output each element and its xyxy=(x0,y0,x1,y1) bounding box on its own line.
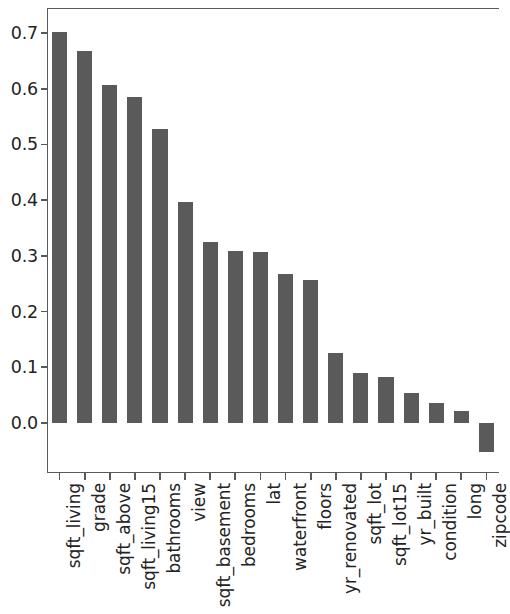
bar xyxy=(178,202,193,423)
x-axis-tick-mark xyxy=(310,473,312,480)
x-axis-tick-mark xyxy=(260,473,262,480)
y-axis-tick-label: 0.0 xyxy=(11,412,38,434)
y-axis-tick-label: 0.2 xyxy=(11,301,38,323)
x-axis-tick-label-text: view xyxy=(191,483,208,522)
y-axis: 0.00.10.20.30.40.50.60.7 xyxy=(0,0,47,614)
x-axis-tick-label-text: sqft_basement xyxy=(216,483,233,607)
x-axis-tick-label: sqft_above xyxy=(110,483,127,575)
x-axis-tick-label-text: long xyxy=(467,483,484,519)
y-axis-tick-label: 0.6 xyxy=(11,78,38,100)
x-axis-tick-label: condition xyxy=(436,483,453,561)
x-axis-tick-label-text: lat xyxy=(266,483,283,505)
x-axis-tick-label: sqft_lot xyxy=(361,483,378,545)
x-axis-tick-mark xyxy=(285,473,287,480)
x-axis-tick-mark xyxy=(59,473,61,480)
x-axis-tick-label: floors xyxy=(311,483,328,530)
bar xyxy=(404,393,419,423)
x-axis-tick-label: waterfront xyxy=(286,483,303,571)
x-axis-tick-label-text: sqft_living xyxy=(66,483,83,568)
y-axis-tick-label: 0.3 xyxy=(11,245,38,267)
bar xyxy=(102,85,117,422)
bar xyxy=(228,251,243,423)
x-axis-tick-label: bathrooms xyxy=(160,483,177,574)
x-axis-tick-mark xyxy=(209,473,211,480)
x-axis-tick-label-text: sqft_lot15 xyxy=(392,483,409,566)
x-axis-tick-label-text: bedrooms xyxy=(241,483,258,567)
y-axis-tick-label: 0.5 xyxy=(11,133,38,155)
x-axis-tick-label-text: sqft_above xyxy=(116,483,133,575)
x-axis-tick-mark xyxy=(159,473,161,480)
bar xyxy=(454,411,469,423)
x-axis-tick-mark xyxy=(360,473,362,480)
x-axis-tick-label: zipcode xyxy=(486,483,503,548)
x-axis-tick-labels: sqft_livinggradesqft_abovesqft_living15b… xyxy=(47,483,499,614)
y-axis-tick-label: 0.4 xyxy=(11,189,38,211)
x-axis-tick-label: sqft_living xyxy=(60,483,77,568)
x-axis-tick-label-text: yr_renovated xyxy=(342,483,359,594)
x-axis-tick-label-text: condition xyxy=(442,483,459,561)
x-axis-tick-label-text: waterfront xyxy=(292,483,309,571)
bar xyxy=(303,280,318,423)
bar xyxy=(278,274,293,423)
x-axis-tick-label-text: floors xyxy=(317,483,334,530)
x-axis-tick-mark xyxy=(134,473,136,480)
x-axis-tick-label: view xyxy=(185,483,202,522)
x-axis-tick-label-text: bathrooms xyxy=(166,483,183,574)
bar xyxy=(152,129,167,422)
x-axis-tick-mark xyxy=(435,473,437,480)
x-axis-tick-label: grade xyxy=(85,483,102,532)
bar-series xyxy=(47,8,499,473)
x-axis-tick-label-text: sqft_lot xyxy=(367,483,384,545)
x-axis-tick-label-text: yr_built xyxy=(417,483,434,545)
x-axis-tick-label: sqft_living15 xyxy=(135,483,152,590)
bar xyxy=(479,423,494,453)
x-axis-tick-label-text: sqft_living15 xyxy=(141,483,158,590)
x-axis-tick-label: yr_built xyxy=(411,483,428,545)
x-axis-tick-label: yr_renovated xyxy=(336,483,353,594)
bar xyxy=(127,97,142,423)
x-axis-tick-label: long xyxy=(461,483,478,519)
y-axis-tick-label: 0.7 xyxy=(11,22,38,44)
bar xyxy=(328,353,343,423)
bar xyxy=(203,242,218,422)
x-axis-tick-mark xyxy=(234,473,236,480)
x-axis-tick-label: bedrooms xyxy=(235,483,252,567)
x-axis-tick-mark xyxy=(385,473,387,480)
bar xyxy=(52,32,67,423)
x-axis-tick-label: sqft_lot15 xyxy=(386,483,403,566)
bar xyxy=(429,403,444,423)
x-axis-tick-label-text: zipcode xyxy=(492,483,509,548)
bar xyxy=(353,373,368,423)
x-axis-tick-mark xyxy=(335,473,337,480)
x-axis-tick-mark xyxy=(486,473,488,480)
x-axis-tick-mark xyxy=(460,473,462,480)
x-axis-tick-mark xyxy=(410,473,412,480)
bar xyxy=(378,377,393,423)
x-axis-tick-label: sqft_basement xyxy=(210,483,227,607)
x-axis-tick-label: lat xyxy=(260,483,277,505)
x-axis-ticks xyxy=(47,473,499,483)
y-axis-tick-label: 0.1 xyxy=(11,356,38,378)
x-axis-tick-mark xyxy=(109,473,111,480)
x-axis-tick-label-text: grade xyxy=(91,483,108,532)
bar xyxy=(253,252,268,423)
x-axis-tick-mark xyxy=(184,473,186,480)
bar xyxy=(77,51,92,422)
x-axis-tick-mark xyxy=(84,473,86,480)
